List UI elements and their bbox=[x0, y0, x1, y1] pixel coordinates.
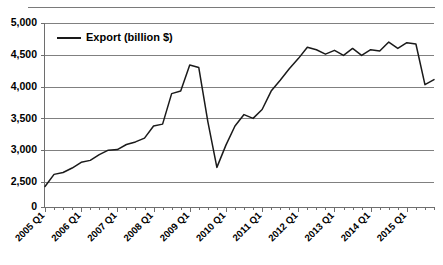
x-axis-tick-labels: 2005 Q12006 Q12007 Q12008 Q12009 Q12010 … bbox=[13, 209, 409, 243]
x-tick-label: 2005 Q1 bbox=[13, 209, 47, 243]
y-tick-label: 3,500 bbox=[11, 112, 37, 124]
x-tick-label: 2008 Q1 bbox=[121, 209, 155, 243]
y-tick-label: 0 bbox=[31, 200, 37, 212]
x-tick-label: 2010 Q1 bbox=[194, 209, 228, 243]
y-tick-label: 3,000 bbox=[11, 143, 37, 155]
y-tick-label: 4,500 bbox=[11, 48, 37, 60]
x-tick-label: 2013 Q1 bbox=[302, 209, 336, 243]
export-line-chart: 5,0004,5004,0003,5003,0002,5000 2005 Q12… bbox=[0, 0, 443, 265]
x-tick-label: 2012 Q1 bbox=[266, 209, 300, 243]
y-tick-label: 5,000 bbox=[11, 16, 37, 28]
x-tick-label: 2011 Q1 bbox=[230, 209, 264, 243]
x-tick-label: 2007 Q1 bbox=[85, 209, 119, 243]
y-axis-tick-labels: 5,0004,5004,0003,5003,0002,5000 bbox=[11, 16, 37, 212]
y-tick-label: 2,500 bbox=[11, 175, 37, 187]
x-tick-label: 2014 Q1 bbox=[338, 209, 372, 243]
export-series-line bbox=[45, 42, 434, 186]
chart-plot-area: 5,0004,5004,0003,5003,0002,5000 2005 Q12… bbox=[0, 0, 443, 265]
gridlines bbox=[41, 24, 434, 208]
y-tick-label: 4,000 bbox=[11, 80, 37, 92]
x-tick-label: 2015 Q1 bbox=[374, 209, 408, 243]
x-tick-label: 2009 Q1 bbox=[157, 209, 191, 243]
x-tick-label: 2006 Q1 bbox=[49, 209, 83, 243]
legend-entry-label: Export (billion $) bbox=[86, 31, 173, 43]
